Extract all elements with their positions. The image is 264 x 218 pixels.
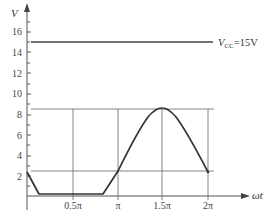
x-axis-label: ωt xyxy=(252,189,264,201)
x-tick-2pi: 2π xyxy=(203,200,213,211)
waveform-curve xyxy=(27,108,208,194)
y-tick-4: 4 xyxy=(17,150,22,161)
y-tick-8: 8 xyxy=(17,109,22,120)
chart-figure: 16 14 12 10 8 6 4 2 V VCC=15V 0.5π π 1.5… xyxy=(0,0,264,218)
y-tick-2: 2 xyxy=(17,171,22,182)
x-tick-pi: π xyxy=(115,200,120,211)
y-ticks xyxy=(27,22,31,186)
x-axis-arrow-icon xyxy=(241,193,250,199)
y-tick-12: 12 xyxy=(12,68,22,79)
chart-canvas: 16 14 12 10 8 6 4 2 V VCC=15V 0.5π π 1.5… xyxy=(0,0,264,218)
x-tick-0.5pi: 0.5π xyxy=(64,200,82,211)
y-tick-10: 10 xyxy=(12,88,22,99)
y-axis-arrow-icon xyxy=(24,3,30,12)
y-tick-14: 14 xyxy=(12,47,22,58)
y-tick-6: 6 xyxy=(17,130,22,141)
vcc-label: VCC=15V xyxy=(218,37,258,50)
end-point-marker xyxy=(207,171,210,174)
y-tick-16: 16 xyxy=(12,26,22,37)
y-axis-label: V xyxy=(11,7,19,19)
x-tick-1.5pi: 1.5π xyxy=(153,200,171,211)
